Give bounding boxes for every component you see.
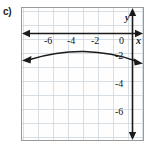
y-axis-letter: y [125,13,129,23]
x-tick-label-zero: 0 [119,36,124,46]
x-tick-label-neg6: -6 [44,36,52,46]
figure-container: c) [0,0,149,149]
y-tick-label-neg2: -2 [115,51,123,61]
y-tick-label-neg6: -6 [115,107,123,117]
x-tick-label-neg2: -2 [91,36,99,46]
x-tick-label-neg4: -4 [67,36,75,46]
parabola-curve [22,8,143,140]
part-label: c) [3,6,11,17]
y-tick-label-neg4: -4 [115,79,123,89]
x-axis-letter: x [136,36,141,46]
plot-frame: -6 -4 -2 0 -2 -4 -6 x y [21,7,144,141]
